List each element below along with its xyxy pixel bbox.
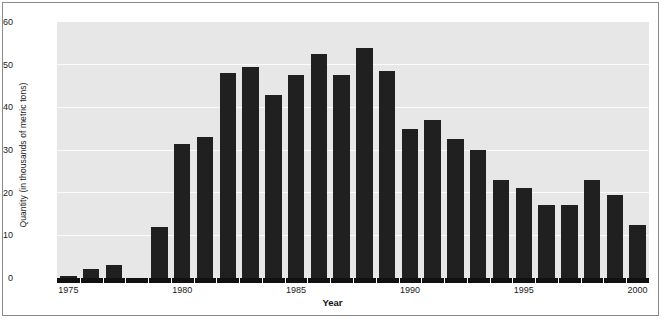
x-axis-tick [603, 278, 604, 283]
y-tick-label: 20 [0, 188, 13, 198]
bar [83, 269, 99, 278]
bar [106, 265, 122, 278]
bar [561, 205, 577, 278]
y-tick-label: 50 [0, 60, 13, 70]
x-axis-tick [125, 278, 126, 283]
chart-figure: Quantity (in thousands of metric tons) 0… [0, 0, 665, 326]
x-axis-title: Year [0, 297, 665, 308]
bar-series [57, 22, 649, 278]
y-axis-title: Quantity (in thousands of metric tons) [18, 40, 28, 270]
bar [197, 137, 213, 278]
y-tick-label: 10 [0, 230, 13, 240]
bar [174, 144, 190, 278]
bar [516, 188, 532, 278]
x-axis-tick [171, 278, 172, 283]
bar [629, 225, 645, 278]
bar [424, 120, 440, 278]
x-axis-tick [194, 278, 195, 283]
x-axis [57, 278, 649, 283]
x-axis-tick [376, 278, 377, 283]
bar [379, 71, 395, 278]
plot-area [57, 22, 649, 278]
x-axis-tick [285, 278, 286, 283]
x-axis-tick [512, 278, 513, 283]
bar [447, 139, 463, 278]
x-axis-tick [103, 278, 104, 283]
y-tick-label: 40 [0, 102, 13, 112]
bar [151, 227, 167, 278]
bar [220, 73, 236, 278]
bar [333, 75, 349, 278]
x-axis-tick [399, 278, 400, 283]
x-axis-tick [444, 278, 445, 283]
bar [311, 54, 327, 278]
bar [265, 95, 281, 278]
x-axis-tick [535, 278, 536, 283]
x-axis-tick [626, 278, 627, 283]
bar [538, 205, 554, 278]
x-tick-label: 1985 [286, 285, 306, 295]
x-axis-tick [307, 278, 308, 283]
x-axis-tick [421, 278, 422, 283]
x-axis-tick [148, 278, 149, 283]
x-axis-tick [216, 278, 217, 283]
x-tick-label: 1990 [400, 285, 420, 295]
y-tick-label: 0 [0, 273, 13, 283]
bar [493, 180, 509, 278]
x-axis-tick [262, 278, 263, 283]
x-axis-tick [490, 278, 491, 283]
x-tick-label: 2000 [628, 285, 648, 295]
x-axis-tick [239, 278, 240, 283]
bar [584, 180, 600, 278]
x-axis-tick [581, 278, 582, 283]
bar [470, 150, 486, 278]
y-tick-label: 60 [0, 17, 13, 27]
bar [607, 195, 623, 278]
x-axis-tick [80, 278, 81, 283]
y-tick-label: 30 [0, 145, 13, 155]
bar [288, 75, 304, 278]
x-tick-label: 1995 [514, 285, 534, 295]
bar [242, 67, 258, 278]
x-tick-label: 1980 [172, 285, 192, 295]
x-axis-tick [467, 278, 468, 283]
bar [402, 129, 418, 278]
x-tick-label: 1975 [58, 285, 78, 295]
x-axis-tick [558, 278, 559, 283]
x-axis-tick [353, 278, 354, 283]
x-axis-tick [330, 278, 331, 283]
bar [356, 48, 372, 278]
